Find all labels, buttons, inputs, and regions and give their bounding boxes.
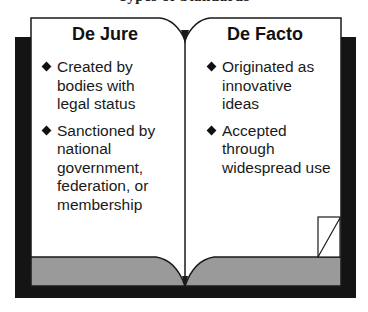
left-page-content: Created by bodies with legal status Sanc… bbox=[43, 58, 183, 222]
right-page-content: Originated as innovative ideas Accepted … bbox=[208, 58, 343, 185]
diamond-bullet-icon bbox=[42, 62, 52, 72]
diamond-bullet-icon bbox=[207, 125, 217, 135]
bullet-item: Originated as innovative ideas bbox=[208, 58, 343, 114]
bullet-text: Accepted through widespread use bbox=[222, 122, 343, 178]
left-page-heading: De Jure bbox=[72, 24, 138, 45]
bullet-item: Accepted through widespread use bbox=[208, 122, 343, 178]
bullet-text: Sanctioned by national government, feder… bbox=[57, 122, 183, 215]
folded-page-corner-icon bbox=[318, 217, 340, 257]
open-book-diagram: Types of Standards De Jure Created by bo… bbox=[0, 0, 368, 312]
bullet-text: Created by bodies with legal status bbox=[57, 58, 183, 114]
bullet-item: Created by bodies with legal status bbox=[43, 58, 183, 114]
right-page-bullet-list: Originated as innovative ideas Accepted … bbox=[208, 58, 343, 177]
bullet-text: Originated as innovative ideas bbox=[222, 58, 343, 114]
left-page-bullet-list: Created by bodies with legal status Sanc… bbox=[43, 58, 183, 214]
right-page-heading: De Facto bbox=[227, 24, 303, 45]
bullet-item: Sanctioned by national government, feder… bbox=[43, 122, 183, 215]
diamond-bullet-icon bbox=[207, 62, 217, 72]
diamond-bullet-icon bbox=[42, 125, 52, 135]
